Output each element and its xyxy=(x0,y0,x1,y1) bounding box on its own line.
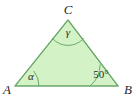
angle-label-b-value: 50° xyxy=(93,68,108,80)
geometry-figure: A B C α 50° γ xyxy=(0,0,137,97)
angle-label-gamma: γ xyxy=(66,26,71,38)
vertex-label-c: C xyxy=(64,2,73,17)
vertex-label-a: A xyxy=(2,82,11,97)
triangle-diagram-svg: A B C α 50° γ xyxy=(0,0,137,97)
vertex-label-b: B xyxy=(124,82,132,97)
angle-label-alpha: α xyxy=(28,70,34,82)
